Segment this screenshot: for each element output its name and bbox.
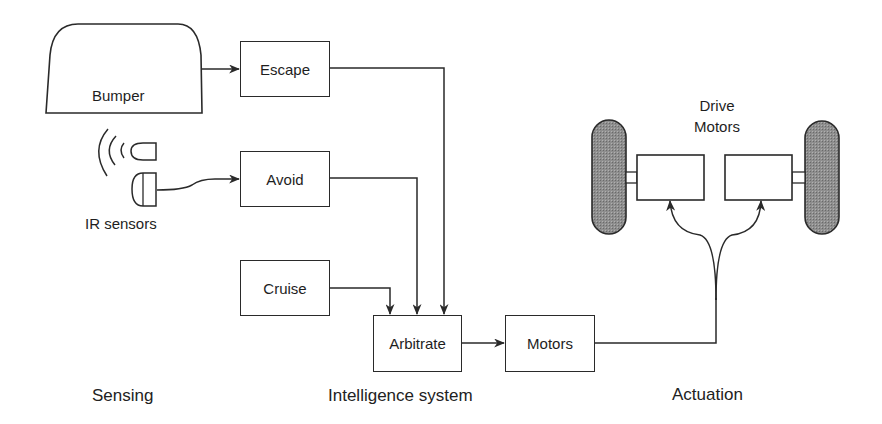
right-axle bbox=[792, 172, 805, 183]
section-actuation: Actuation bbox=[672, 385, 743, 405]
avoid-label: Avoid bbox=[266, 171, 303, 188]
arbitrate-node: Arbitrate bbox=[373, 315, 462, 372]
avoid-node: Avoid bbox=[240, 151, 330, 207]
cruise-label: Cruise bbox=[263, 280, 306, 297]
cruise-node: Cruise bbox=[240, 260, 330, 316]
section-sensing: Sensing bbox=[92, 386, 153, 406]
left-wheel-icon bbox=[592, 120, 626, 234]
escape-label: Escape bbox=[260, 61, 310, 78]
ir-sensors-label: IR sensors bbox=[85, 215, 157, 232]
ir-waves-icon bbox=[99, 129, 124, 176]
motors-node: Motors bbox=[505, 315, 595, 372]
section-intelligence: Intelligence system bbox=[328, 386, 473, 406]
motors-label: Motors bbox=[527, 335, 573, 352]
right-wheel-icon bbox=[805, 121, 839, 234]
escape-node: Escape bbox=[240, 41, 330, 97]
left-drive-motor bbox=[637, 155, 704, 200]
ir-emitter-icon bbox=[131, 143, 156, 160]
ir-receiver-icon bbox=[132, 173, 156, 206]
arbitrate-label: Arbitrate bbox=[389, 335, 446, 352]
bumper-label: Bumper bbox=[92, 87, 145, 104]
left-axle bbox=[626, 172, 637, 183]
drive-motors-label-line2: Motors bbox=[687, 118, 747, 135]
right-drive-motor bbox=[725, 155, 792, 200]
drive-motors-label-line1: Drive bbox=[695, 97, 739, 114]
